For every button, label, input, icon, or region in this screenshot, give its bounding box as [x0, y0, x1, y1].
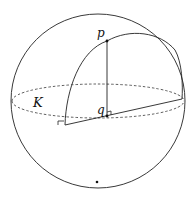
- right-angle-mark-q: [107, 111, 111, 115]
- point-q: [106, 115, 109, 118]
- label-q: q: [97, 103, 105, 117]
- label-K: K: [32, 95, 44, 110]
- point-p: [106, 40, 109, 43]
- sphere-diagram: p q K: [0, 0, 191, 198]
- great-arc: [65, 33, 182, 125]
- right-angle-mark-left: [58, 121, 64, 125]
- label-p: p: [97, 26, 105, 40]
- equatorial-chord: [65, 99, 182, 125]
- south-pole-dot: [96, 181, 99, 184]
